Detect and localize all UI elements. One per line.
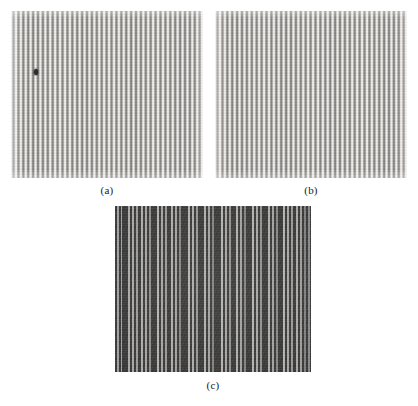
moire-bright-line xyxy=(244,206,246,372)
moire-bright-line xyxy=(240,206,242,372)
moire-bright-line xyxy=(128,206,130,372)
moire-bright-line xyxy=(256,206,258,372)
moire-bright-line xyxy=(229,206,231,372)
panel-caption-b: (b) xyxy=(281,184,341,196)
moire-bright-line xyxy=(196,206,198,372)
moire-bright-line xyxy=(121,206,122,372)
panel-caption-a: (a) xyxy=(77,184,137,196)
moire-bright-line xyxy=(225,206,227,372)
moire-bright-line xyxy=(161,206,163,372)
moire-bright-line xyxy=(236,206,238,372)
moire-bright-line xyxy=(296,206,298,372)
moire-bright-line xyxy=(149,206,151,372)
moire-bright-line xyxy=(192,206,194,372)
moire-bright-line xyxy=(304,206,306,372)
grating-surface-b xyxy=(215,11,407,178)
moire-bright-line xyxy=(291,206,293,372)
moire-bright-line xyxy=(132,206,134,372)
moire-bright-line xyxy=(204,206,206,372)
figure-root: (a) (b) (c) xyxy=(0,0,418,406)
moire-bright-line xyxy=(252,206,254,372)
moire-bright-line xyxy=(268,206,270,372)
figure-panel-a xyxy=(11,11,203,178)
moire-bright-line xyxy=(117,206,119,372)
moire-bright-line xyxy=(260,206,262,372)
panel-caption-c: (c) xyxy=(183,379,243,391)
moire-bright-line xyxy=(308,206,310,372)
moire-bright-line xyxy=(136,206,138,372)
moire-bright-line xyxy=(188,206,190,372)
moire-bright-line xyxy=(283,206,285,372)
moire-bright-line xyxy=(276,206,278,372)
moire-bright-line xyxy=(165,206,167,372)
moire-bright-line xyxy=(171,206,173,372)
moire-bright-line xyxy=(141,206,143,372)
moire-bright-line xyxy=(175,206,177,372)
moire-bright-line xyxy=(287,206,289,372)
point-defect-marker xyxy=(34,69,38,75)
moire-bright-line xyxy=(208,206,210,372)
moire-bright-line xyxy=(157,206,159,372)
figure-panel-c xyxy=(115,206,311,372)
moire-bright-line xyxy=(212,206,214,372)
moire-bright-line xyxy=(300,206,302,372)
moire-bright-line xyxy=(179,206,181,372)
grating-surface-a xyxy=(11,11,203,178)
moire-bright-line xyxy=(221,206,223,372)
moire-bright-line xyxy=(272,206,274,372)
moire-bright-line xyxy=(145,206,147,372)
figure-panel-b xyxy=(215,11,407,178)
